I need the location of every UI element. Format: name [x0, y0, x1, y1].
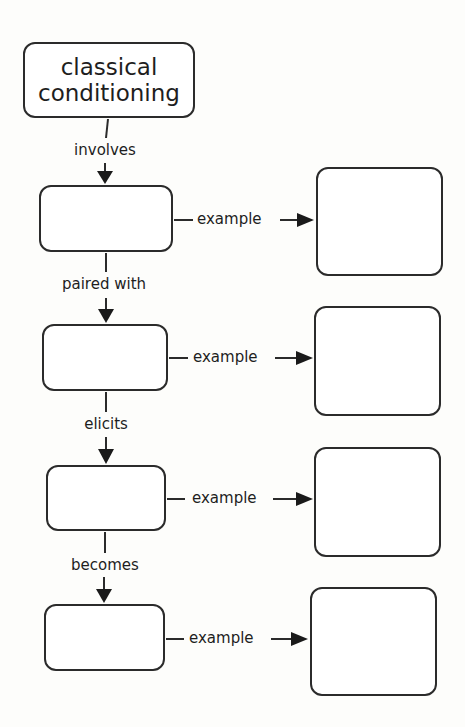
- concept-box-1[interactable]: [39, 185, 173, 252]
- title-line-2: conditioning: [38, 80, 180, 106]
- example-label-2: example: [193, 348, 258, 366]
- example-box-2[interactable]: [314, 306, 441, 416]
- concept-box-4[interactable]: [44, 604, 165, 671]
- arrow-down-icon: [98, 309, 114, 323]
- example-label-3: example: [192, 489, 257, 507]
- title-line-1: classical: [61, 54, 158, 80]
- arrow-down-icon: [98, 449, 114, 464]
- involves-connector-top: [106, 119, 108, 138]
- arrow-down-icon: [97, 171, 113, 184]
- example-label-4: example: [189, 629, 254, 647]
- arrow-right-icon: [297, 213, 314, 227]
- concept-box-3[interactable]: [46, 465, 166, 531]
- example-label-1: example: [197, 210, 262, 228]
- example-box-3[interactable]: [314, 447, 441, 557]
- example-box-1[interactable]: [316, 167, 443, 276]
- concept-box-2[interactable]: [42, 324, 168, 391]
- link-label-becomes: becomes: [71, 556, 139, 574]
- link-label-paired-with: paired with: [62, 275, 146, 293]
- arrow-right-icon: [296, 351, 313, 365]
- arrow-right-icon: [296, 492, 313, 506]
- arrow-down-icon: [96, 589, 112, 603]
- link-label-elicits: elicits: [84, 415, 128, 433]
- link-label-involves: involves: [74, 141, 136, 159]
- example-box-4[interactable]: [310, 587, 437, 696]
- classical-conditioning-node: classical conditioning: [23, 42, 195, 118]
- arrow-right-icon: [291, 632, 308, 646]
